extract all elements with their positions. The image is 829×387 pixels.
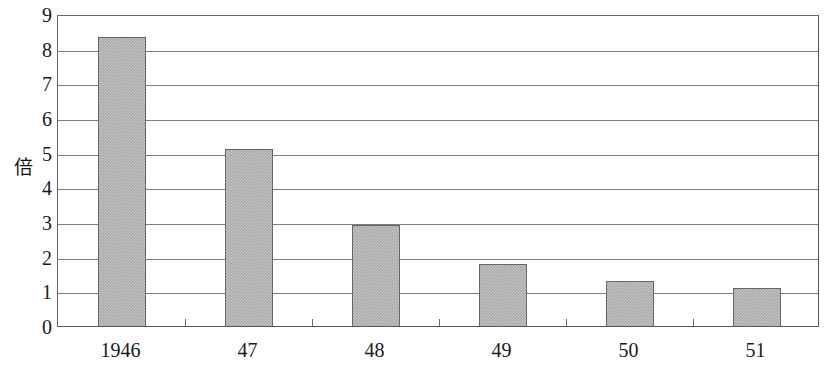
gridline — [58, 120, 818, 121]
gridline — [58, 189, 818, 190]
bar — [98, 37, 146, 326]
x-tick-label: 48 — [365, 337, 385, 363]
x-axis-tick-labels: 1946 47 48 49 50 51 — [57, 337, 819, 373]
gridline — [58, 85, 818, 86]
y-tick-label: 3 — [20, 213, 52, 233]
bar — [733, 288, 781, 326]
gridline — [58, 155, 818, 156]
y-axis-tick-labels: 9 8 7 6 5 4 3 2 1 0 — [20, 0, 52, 387]
bar — [225, 149, 273, 326]
y-tick-label: 8 — [20, 40, 52, 60]
y-tick-label: 5 — [20, 144, 52, 164]
y-tick-label: 4 — [20, 178, 52, 198]
x-tick-label: 50 — [619, 337, 639, 363]
bar — [606, 281, 654, 326]
x-axis-tickmark — [312, 319, 313, 326]
gridline — [58, 51, 818, 52]
plot-area — [57, 15, 819, 327]
x-tick-label: 1946 — [101, 337, 141, 363]
x-axis-tickmark — [693, 319, 694, 326]
y-tick-label: 0 — [20, 317, 52, 337]
bar — [352, 225, 400, 326]
x-axis-tickmark — [566, 319, 567, 326]
x-axis-tickmark — [439, 319, 440, 326]
y-tick-label: 9 — [20, 5, 52, 25]
bar-chart: 倍 9 8 7 6 5 4 3 2 1 0 1946 47 48 49 50 5… — [0, 0, 829, 387]
y-tick-label: 1 — [20, 282, 52, 302]
x-axis-tickmark — [185, 319, 186, 326]
gridline — [58, 224, 818, 225]
y-tick-label: 7 — [20, 74, 52, 94]
y-tick-label: 2 — [20, 248, 52, 268]
x-tick-label: 49 — [492, 337, 512, 363]
y-tick-label: 6 — [20, 109, 52, 129]
gridline — [58, 293, 818, 294]
x-tick-label: 51 — [746, 337, 766, 363]
x-tick-label: 47 — [238, 337, 258, 363]
gridline — [58, 259, 818, 260]
bar — [479, 264, 527, 326]
